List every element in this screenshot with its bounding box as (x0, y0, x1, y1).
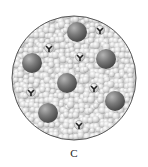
container-circle (7, 12, 137, 142)
molecule (45, 44, 54, 53)
particle-mixture-diagram (0, 0, 148, 150)
large-sphere (38, 103, 58, 123)
large-sphere (105, 91, 125, 111)
molecule (96, 26, 105, 35)
large-sphere (96, 49, 116, 69)
molecule (90, 84, 99, 93)
large-sphere (57, 73, 77, 93)
figure-label: C (0, 147, 148, 159)
large-sphere (22, 53, 42, 73)
molecule (76, 53, 85, 62)
molecule (27, 88, 36, 97)
molecule (75, 121, 84, 130)
large-sphere (67, 22, 87, 42)
